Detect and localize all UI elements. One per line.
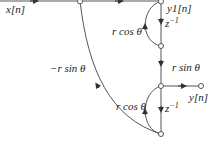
lower-feedback-loop xyxy=(145,86,161,134)
node-y1 xyxy=(159,0,164,4)
node-input-branch xyxy=(78,0,83,4)
gain-top-loop-label: r cos θ xyxy=(112,25,142,37)
y1-label: y1[n] xyxy=(166,2,191,14)
output-label: y[n] xyxy=(188,91,208,103)
delay-top-label: z−1 xyxy=(164,16,179,29)
upper-feedback-loop xyxy=(145,1,161,46)
gain-vertical-label: r sin θ xyxy=(172,61,201,73)
cross-coupling-branch xyxy=(80,1,161,134)
node-output-terminal xyxy=(199,84,204,89)
input-label: x[n] xyxy=(5,3,25,15)
delay-bottom-label: z−1 xyxy=(164,101,179,114)
gain-feedback-label: −r sin θ xyxy=(50,62,86,74)
signal-flow-graph: x[n] y1[n] z−1 r cos θ r sin θ −r sin θ … xyxy=(0,0,213,148)
node-delay2-output xyxy=(159,132,164,137)
node-delay1-output xyxy=(159,44,164,49)
gain-bottom-loop-label: r cos θ xyxy=(116,100,146,112)
node-y xyxy=(159,84,164,89)
